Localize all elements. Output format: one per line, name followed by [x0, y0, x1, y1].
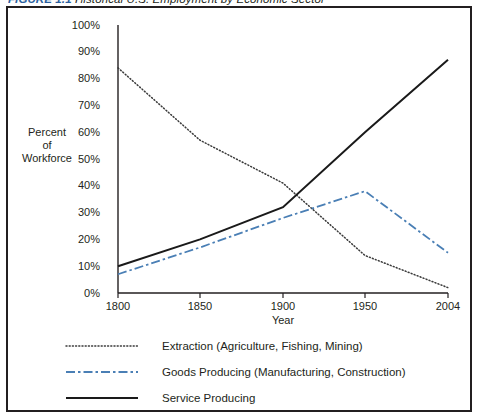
- legend-item-goods-producing: Goods Producing (Manufacturing, Construc…: [64, 362, 406, 382]
- legend-item-service-producing: Service Producing: [64, 388, 255, 408]
- legend-swatch-extraction-icon: [64, 339, 140, 353]
- series-line-extraction: [118, 68, 448, 288]
- chart-legend: Extraction (Agriculture, Fishing, Mining…: [8, 334, 470, 410]
- x-tick-2004: 2004: [418, 300, 478, 313]
- x-tick-1950: 1950: [335, 300, 395, 313]
- x-axis-title: Year: [253, 314, 313, 327]
- figure-number-label: FIGURE 1.1: [8, 0, 72, 5]
- chart-svg: [8, 8, 470, 328]
- series-line-goods-producing: [118, 191, 448, 274]
- series-line-service-producing: [118, 60, 448, 266]
- legend-label-service-producing: Service Producing: [140, 391, 255, 405]
- x-tick-1800: 1800: [88, 300, 148, 313]
- x-axis-tick-labels: 1800 1850 1900 1950 2004: [8, 300, 470, 316]
- legend-swatch-goods-producing-icon: [64, 365, 140, 379]
- x-tick-1900: 1900: [253, 300, 313, 313]
- legend-label-goods-producing: Goods Producing (Manufacturing, Construc…: [140, 365, 406, 379]
- legend-label-extraction: Extraction (Agriculture, Fishing, Mining…: [140, 339, 363, 353]
- figure-caption: Historical U.S. Employment by Economic S…: [75, 0, 325, 5]
- figure-container: FIGURE 1.1 Historical U.S. Employment by…: [0, 0, 478, 418]
- plot-area: Percent of Workforce 100% 90% 80% 70% 60…: [8, 8, 470, 328]
- legend-item-extraction: Extraction (Agriculture, Fishing, Mining…: [64, 336, 363, 356]
- x-tick-1850: 1850: [170, 300, 230, 313]
- figure-frame: Percent of Workforce 100% 90% 80% 70% 60…: [6, 6, 472, 412]
- legend-swatch-service-producing-icon: [64, 391, 140, 405]
